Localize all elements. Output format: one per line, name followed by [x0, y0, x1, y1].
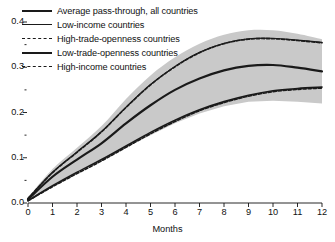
y-axis-tick-label: 0.4	[0, 16, 24, 26]
legend-item-average-pass-through: Average pass-through, all countries	[22, 4, 198, 18]
legend-label: Average pass-through, all countries	[57, 4, 198, 18]
chart-legend: Average pass-through, all countries Low-…	[22, 4, 198, 74]
legend-key-solid-line	[22, 46, 52, 60]
legend-label: Low-trade-openness countries	[57, 46, 178, 60]
legend-item-high-income: High-income countries	[22, 60, 198, 74]
x-axis-tick-label: 8	[216, 207, 232, 217]
x-axis-tick-label: 10	[265, 207, 281, 217]
legend-key-dashed-line	[22, 60, 52, 74]
x-axis-tick-label: 0	[20, 207, 36, 217]
x-axis-title: Months	[0, 224, 335, 234]
x-axis-tick-label: 11	[290, 207, 306, 217]
legend-label: Low-income countries	[57, 18, 144, 32]
x-axis-tick-label: 3	[94, 207, 110, 217]
x-axis-tick-label: 12	[314, 207, 330, 217]
legend-item-low-trade-openness: Low-trade-openness countries	[22, 46, 198, 60]
chart-figure: Average pass-through, all countries Low-…	[0, 0, 335, 242]
x-axis-tick-label: 7	[192, 207, 208, 217]
legend-item-low-income: Low-income countries	[22, 18, 198, 32]
x-axis-tick-label: 5	[143, 207, 159, 217]
y-axis-tick-label: 0.1	[0, 152, 24, 162]
x-axis-tick-label: 6	[167, 207, 183, 217]
y-axis-tick-label: 0.0	[0, 197, 24, 207]
legend-key-thin-solid-line	[22, 18, 52, 32]
legend-key-thick-solid-line	[22, 4, 52, 18]
legend-label: High-trade-openness countries	[57, 32, 180, 46]
legend-label: High-income countries	[57, 60, 146, 74]
y-axis-tick-label: 0.2	[0, 107, 24, 117]
x-axis-tick-label: 1	[45, 207, 61, 217]
x-axis-tick-label: 9	[241, 207, 257, 217]
legend-key-dashed-line	[22, 32, 52, 46]
x-axis-tick-label: 2	[69, 207, 85, 217]
y-axis-tick-label: 0.3	[0, 61, 24, 71]
x-axis-tick-label: 4	[118, 207, 134, 217]
legend-item-high-trade-openness: High-trade-openness countries	[22, 32, 198, 46]
